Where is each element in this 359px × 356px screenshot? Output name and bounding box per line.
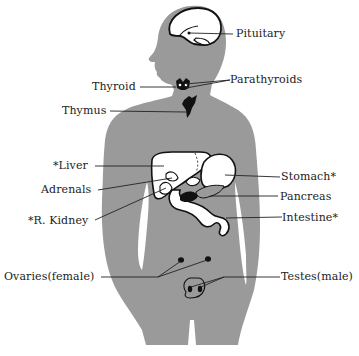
label-intestine: Intestine*	[282, 212, 338, 224]
label-ovaries: Ovaries(female)	[4, 271, 94, 283]
label-stomach: Stomach*	[281, 171, 336, 183]
label-pituitary: Pituitary	[236, 28, 285, 40]
label-testes: Testes(male)	[281, 271, 353, 283]
label-pancreas: Pancreas	[280, 191, 331, 203]
label-adrenals: Adrenals	[41, 184, 91, 196]
endocrine-diagram: Pituitary Parathyroids Thyroid Thymus *L…	[0, 0, 359, 356]
label-parathyroids: Parathyroids	[230, 74, 302, 86]
label-thyroid: Thyroid	[92, 81, 136, 93]
label-liver: *Liver	[53, 160, 88, 172]
label-thymus: Thymus	[62, 105, 106, 117]
label-r-kidney: *R. Kidney	[28, 215, 88, 227]
